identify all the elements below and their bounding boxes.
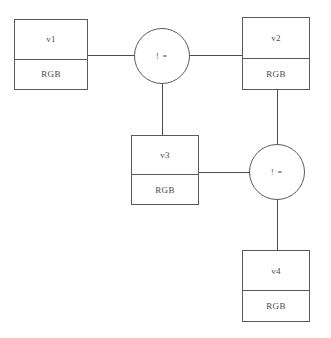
variable-node-v1[interactable]: v1 RGB (14, 19, 88, 90)
variable-domain-v1: RGB (15, 59, 87, 89)
constraint-node-not-equal-1[interactable]: ! = (134, 28, 190, 84)
variable-domain-v4: RGB (243, 290, 309, 321)
variable-label-v3: v3 (132, 136, 198, 174)
constraint-node-not-equal-2[interactable]: ! = (249, 144, 305, 200)
variable-node-v2[interactable]: v2 RGB (242, 17, 310, 90)
variable-label-v2: v2 (243, 18, 309, 58)
edge-v3-to-constraint-2 (198, 172, 250, 173)
variable-node-v3[interactable]: v3 RGB (131, 135, 199, 205)
variable-domain-v2: RGB (243, 58, 309, 89)
constraint-graph-diagram: v1 RGB v2 RGB v3 RGB v4 RGB ! = ! = (0, 0, 331, 338)
edge-v1-to-constraint-1 (88, 55, 135, 56)
edge-constraint-1-to-v3 (162, 83, 163, 136)
edge-v2-to-constraint-2 (277, 89, 278, 145)
variable-node-v4[interactable]: v4 RGB (242, 250, 310, 322)
edge-constraint-1-to-v2 (189, 55, 243, 56)
variable-label-v1: v1 (15, 20, 87, 59)
variable-label-v4: v4 (243, 251, 309, 290)
edge-constraint-2-to-v4 (277, 199, 278, 251)
variable-domain-v3: RGB (132, 174, 198, 204)
